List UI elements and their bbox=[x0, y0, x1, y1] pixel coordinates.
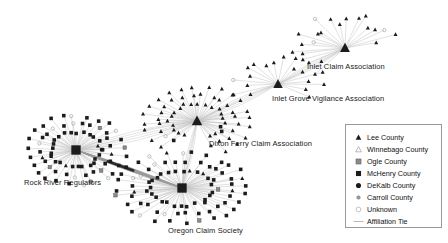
graph-node bbox=[162, 105, 166, 109]
graph-node bbox=[174, 170, 178, 174]
graph-node bbox=[80, 165, 84, 169]
graph-node bbox=[193, 201, 197, 205]
graph-node bbox=[89, 164, 93, 168]
graph-node bbox=[48, 165, 52, 169]
square-filled-icon bbox=[352, 167, 365, 179]
graph-node bbox=[160, 200, 164, 204]
graph-node bbox=[230, 177, 234, 181]
graph-node bbox=[150, 179, 154, 183]
graph-node bbox=[243, 192, 247, 196]
graph-node bbox=[264, 64, 268, 68]
legend-item-lee-county[interactable]: Lee County bbox=[352, 131, 404, 143]
circle-open-glyph bbox=[356, 207, 361, 212]
graph-node bbox=[172, 111, 176, 115]
legend-item-winnebago-county[interactable]: Winnebago County bbox=[352, 143, 428, 155]
legend-item-unknown[interactable]: Unknown bbox=[352, 203, 397, 215]
legend-item-label: Carroll County bbox=[367, 193, 413, 202]
graph-node bbox=[62, 114, 66, 118]
graph-node bbox=[159, 145, 163, 149]
legend-item-mchenry-county[interactable]: McHenry County bbox=[352, 167, 421, 179]
graph-node bbox=[167, 171, 171, 175]
graph-node bbox=[131, 184, 135, 188]
graph-node bbox=[159, 172, 163, 176]
cluster-label-oregon-claim-society: Oregon Claim Society bbox=[168, 226, 243, 235]
graph-node bbox=[85, 116, 89, 120]
graph-node bbox=[159, 111, 163, 115]
graph-node bbox=[54, 160, 58, 164]
graph-node bbox=[300, 42, 304, 46]
legend-item-dekalb-county[interactable]: DeKalb County bbox=[352, 179, 415, 191]
graph-node bbox=[182, 170, 186, 174]
cluster-hub-inlet-grove-vigilance-association bbox=[273, 79, 283, 88]
graph-node bbox=[196, 170, 200, 174]
graph-node bbox=[29, 156, 33, 160]
graph-node bbox=[220, 161, 224, 165]
graph-node bbox=[98, 126, 102, 130]
graph-node bbox=[155, 210, 159, 214]
graph-node bbox=[26, 147, 30, 151]
graph-node bbox=[82, 130, 86, 134]
cluster-label-dixon-ferry-claim-association: Dixon Ferry Claim Association bbox=[209, 139, 312, 148]
square-gray-glyph bbox=[356, 158, 361, 163]
legend-item-label: DeKalb County bbox=[367, 181, 415, 190]
graph-node bbox=[165, 151, 169, 155]
graph-node bbox=[197, 219, 201, 223]
graph-node bbox=[212, 216, 216, 220]
square-gray-icon bbox=[352, 155, 365, 167]
graph-node bbox=[51, 146, 55, 150]
graph-node bbox=[147, 104, 151, 108]
graph-node bbox=[100, 148, 104, 152]
graph-node bbox=[252, 62, 256, 66]
graph-node bbox=[394, 32, 398, 36]
graph-node bbox=[272, 60, 276, 64]
graph-node bbox=[239, 168, 243, 172]
graph-node bbox=[214, 167, 218, 171]
graph-node bbox=[163, 212, 166, 215]
graph-node bbox=[227, 163, 231, 167]
graph-node bbox=[240, 176, 244, 180]
graph-node bbox=[319, 31, 323, 35]
graph-node bbox=[373, 28, 377, 32]
triangle-up-filled-icon bbox=[352, 131, 365, 143]
graph-node bbox=[49, 152, 53, 156]
graph-node bbox=[65, 173, 69, 177]
graph-node bbox=[248, 74, 252, 78]
graph-node bbox=[130, 194, 134, 198]
graph-node bbox=[88, 123, 92, 127]
graph-node bbox=[172, 139, 176, 143]
graph-node bbox=[233, 114, 237, 118]
graph-node bbox=[248, 115, 252, 119]
graph-node bbox=[220, 87, 224, 91]
graph-node bbox=[97, 119, 101, 123]
line-icon bbox=[352, 215, 365, 227]
graph-node bbox=[163, 161, 167, 165]
graph-node bbox=[374, 41, 378, 45]
graph-node bbox=[58, 161, 62, 165]
graph-node bbox=[120, 172, 124, 176]
graph-node bbox=[150, 138, 154, 142]
graph-node bbox=[216, 205, 220, 209]
circle-small-dot-icon bbox=[352, 191, 365, 203]
graph-node bbox=[176, 212, 180, 216]
graph-node bbox=[43, 160, 47, 164]
graph-node bbox=[174, 160, 178, 164]
cluster-hub-rock-river-regulators bbox=[71, 145, 80, 154]
graph-node bbox=[173, 205, 177, 209]
graph-node bbox=[150, 192, 154, 196]
network-diagram-figure: Inlet Claim Association Inlet Grove Vigi… bbox=[0, 0, 448, 243]
square-filled-glyph bbox=[356, 170, 361, 175]
graph-node bbox=[93, 157, 97, 161]
graph-node bbox=[98, 139, 102, 143]
graph-node bbox=[154, 195, 158, 199]
graph-node bbox=[205, 154, 209, 158]
legend-item-ogle-county[interactable]: Ogle County bbox=[352, 155, 407, 167]
graph-node bbox=[212, 96, 216, 100]
legend-item-affiliation-tie[interactable]: Affiliation Tie bbox=[352, 215, 408, 227]
graph-node bbox=[168, 219, 172, 223]
affiliation-tie bbox=[254, 64, 278, 84]
graph-node bbox=[54, 170, 58, 174]
legend-item-carroll-county[interactable]: Carroll County bbox=[352, 191, 413, 203]
graph-node bbox=[147, 168, 151, 172]
legend-item-label: Winnebago County bbox=[367, 145, 428, 154]
graph-node bbox=[357, 16, 361, 20]
